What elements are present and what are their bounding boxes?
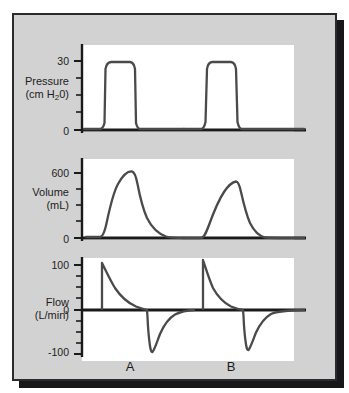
panel-volume: 600 0 Volume (mL) bbox=[14, 135, 335, 245]
panel-flow: 100 0 -100 Flow (L/min) bbox=[14, 245, 335, 379]
pressure-waveform-svg bbox=[14, 15, 335, 135]
volume-trace-breath-b bbox=[184, 182, 304, 239]
plot-stack: 30 0 Pressure (cm H20) bbox=[14, 15, 335, 379]
figure-frame: 30 0 Pressure (cm H20) bbox=[12, 13, 337, 381]
pressure-trace-breath-b bbox=[184, 62, 304, 129]
panel-pressure: 30 0 Pressure (cm H20) bbox=[14, 15, 335, 135]
pressure-trace-breath-a bbox=[84, 62, 184, 129]
flow-trace-breath-a bbox=[102, 263, 194, 352]
ventilator-waveform-figure: 30 0 Pressure (cm H20) bbox=[0, 0, 349, 393]
flow-waveform-svg bbox=[14, 245, 335, 379]
volume-trace-breath-a bbox=[86, 171, 184, 238]
breath-label-b: B bbox=[221, 360, 241, 374]
flow-trace-breath-b bbox=[203, 260, 304, 350]
volume-waveform-svg bbox=[14, 135, 335, 245]
breath-label-a: A bbox=[120, 360, 140, 374]
